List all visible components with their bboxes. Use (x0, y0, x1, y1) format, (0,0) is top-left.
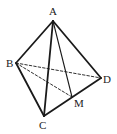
label-M: M (74, 97, 84, 109)
diagram-svg: A B C D M (0, 0, 117, 134)
edges-group (16, 21, 101, 116)
labels-group: A B C D M (6, 5, 111, 131)
label-B: B (6, 57, 13, 69)
label-C: C (39, 119, 46, 131)
label-A: A (49, 5, 57, 17)
edge-AB (16, 21, 53, 63)
tetrahedron-diagram: A B C D M (0, 0, 117, 134)
edge-BC (16, 63, 44, 116)
label-D: D (103, 73, 111, 85)
